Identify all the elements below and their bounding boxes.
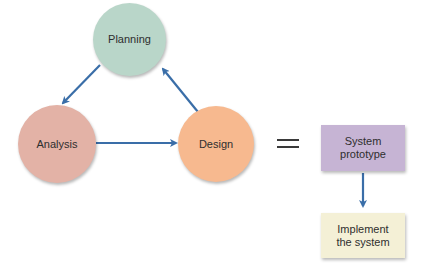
arrow-design-to-planning [163,69,198,112]
planning-node: Planning [93,3,166,76]
planning-label: Planning [108,33,151,46]
design-label: Design [199,138,233,151]
implement-system-box: Implement the system [321,213,405,258]
prototype-label-line1: System [345,135,382,148]
equals-sign [277,139,299,153]
implement-label-line1: Implement [337,223,388,236]
implement-label-line2: the system [336,236,389,249]
system-prototype-box: System prototype [321,125,405,171]
analysis-node: Analysis [18,105,96,183]
design-node: Design [178,106,254,182]
arrow-planning-to-analysis [63,65,100,103]
prototype-label-line2: prototype [340,148,386,161]
analysis-label: Analysis [37,138,78,151]
